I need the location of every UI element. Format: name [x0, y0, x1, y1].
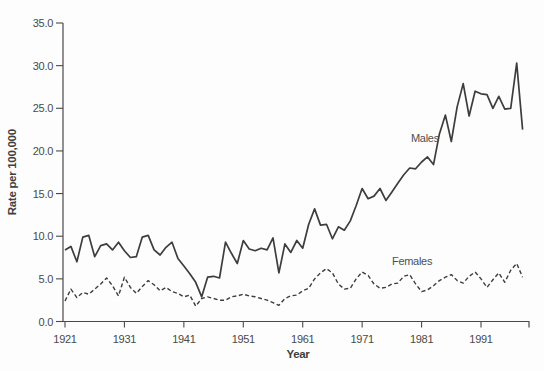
x-tick-label: 1951 — [232, 333, 255, 345]
y-tick-label: 15.0 — [33, 188, 53, 200]
x-tick-label: 1961 — [291, 333, 314, 345]
males-line — [65, 63, 523, 297]
females-label: Females — [392, 255, 433, 267]
y-tick-label: 0.0 — [39, 316, 54, 328]
x-tick-label: 1931 — [113, 333, 136, 345]
females-line — [65, 264, 523, 307]
chart-figure: 0.05.010.015.020.025.030.035.01921193119… — [0, 0, 544, 371]
y-tick-label: 25.0 — [33, 102, 53, 114]
axes-frame — [63, 23, 529, 328]
y-tick-label: 30.0 — [33, 60, 53, 72]
x-tick-label: 1941 — [172, 333, 195, 345]
y-tick-label: 5.0 — [39, 273, 54, 285]
x-tick-label: 1971 — [351, 333, 374, 345]
x-tick-label: 1981 — [410, 333, 433, 345]
x-tick-label: 1921 — [53, 333, 76, 345]
rate-line-chart: 0.05.010.015.020.025.030.035.01921193119… — [0, 0, 544, 371]
x-axis-title: Year — [286, 348, 310, 360]
x-tick-label: 1991 — [469, 333, 492, 345]
y-tick-label: 20.0 — [33, 145, 53, 157]
y-tick-label: 10.0 — [33, 230, 53, 242]
y-tick-label: 35.0 — [33, 17, 53, 29]
y-axis-title: Rate per 100,000 — [6, 129, 18, 215]
males-label: Males — [411, 132, 440, 144]
